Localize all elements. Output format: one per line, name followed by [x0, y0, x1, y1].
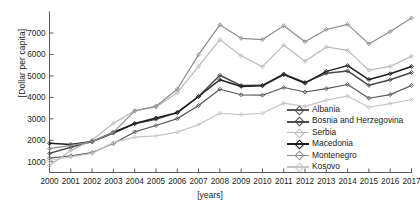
x-tick-label: 2009 [232, 177, 251, 186]
x-tick-label: 2001 [62, 177, 81, 186]
legend-item-bosnia-and-herzegovina[interactable]: Bosnia and Herzegovina [287, 115, 403, 126]
x-tick-label: 2013 [317, 177, 336, 186]
legend-swatch-icon [287, 128, 309, 137]
x-tick-label: 2006 [168, 177, 187, 186]
x-tick-label: 2014 [339, 177, 358, 186]
legend-item-montenegro[interactable]: Montenegro [287, 150, 403, 161]
chart-legend: AlbaniaBosnia and HerzegovinaSerbiaMaced… [287, 104, 403, 172]
x-tick-label: 2015 [360, 177, 379, 186]
x-tick-label: 2012 [296, 177, 315, 186]
x-tick-label: 2011 [275, 177, 293, 186]
x-tick-label: 2000 [40, 177, 59, 186]
legend-item-label: Albania [312, 104, 340, 115]
x-tick-label: 2010 [253, 177, 272, 186]
x-tick-label: 2002 [83, 177, 102, 186]
chart-figure: [Dollar per capita] [years] 100020003000… [0, 0, 420, 208]
y-tick-label: 1000 [27, 158, 46, 167]
y-tick-label: 3000 [27, 115, 46, 124]
legend-item-albania[interactable]: Albania [287, 104, 403, 115]
legend-item-label: Montenegro [312, 150, 357, 161]
legend-swatch-icon [287, 151, 309, 160]
legend-item-label: Kosovo [312, 161, 340, 172]
x-tick-label: 2008 [211, 177, 230, 186]
legend-swatch-icon [287, 139, 309, 148]
y-tick-label: 4000 [27, 93, 46, 102]
x-tick-label: 2004 [126, 177, 145, 186]
x-tick-label: 2016 [381, 177, 400, 186]
x-tick-label: 2003 [104, 177, 123, 186]
legend-item-serbia[interactable]: Serbia [287, 127, 403, 138]
x-tick-label: 2007 [189, 177, 208, 186]
legend-item-label: Serbia [312, 127, 336, 138]
x-tick-label: 2017 [402, 177, 420, 186]
y-tick-label: 6000 [27, 50, 46, 59]
y-tick-label: 5000 [27, 72, 46, 81]
legend-item-label: Bosnia and Herzegovina [312, 115, 403, 126]
legend-item-label: Macedonia [312, 138, 353, 149]
x-tick-label: 2005 [147, 177, 166, 186]
legend-item-kosovo[interactable]: Kosovo [287, 161, 403, 172]
legend-swatch-icon [287, 162, 309, 171]
y-tick-label: 7000 [27, 29, 46, 38]
legend-swatch-icon [287, 117, 309, 126]
y-tick-label: 2000 [27, 136, 46, 145]
legend-item-macedonia[interactable]: Macedonia [287, 138, 403, 149]
legend-swatch-icon [287, 105, 309, 114]
